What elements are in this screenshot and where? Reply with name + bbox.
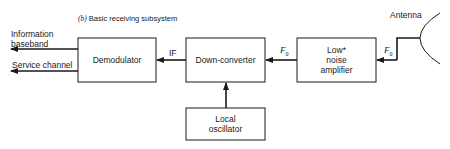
- lna-label-line1: Low*: [327, 45, 346, 55]
- diagram-title: (b) Basic receiving subsystem: [78, 14, 177, 23]
- f0-label-lna-out: F0: [280, 45, 289, 57]
- title-text: Basic receiving subsystem: [89, 14, 177, 23]
- lo-label-line1: Local: [215, 114, 235, 124]
- service-channel-label: Service channel: [12, 60, 72, 70]
- lna-label-line2: noise: [326, 55, 346, 65]
- info-label-line2: baseband: [11, 39, 54, 49]
- antenna-feed: [397, 38, 420, 60]
- info-baseband-label: Information baseband: [11, 29, 54, 49]
- title-prefix: (b): [78, 14, 87, 23]
- if-label: IF: [169, 48, 177, 58]
- lna-label-line3: amplifier: [320, 65, 352, 75]
- lna-label: Low* noise amplifier: [297, 38, 376, 82]
- lo-label-line2: oscillator: [209, 124, 243, 134]
- antenna-dish-icon: [420, 13, 440, 64]
- demodulator-label: Demodulator: [78, 38, 156, 82]
- antenna-label: Antenna: [390, 10, 422, 20]
- down-converter-label: Down-converter: [186, 38, 265, 82]
- f0-label-antenna: F0: [384, 45, 393, 57]
- local-oscillator-label: Local oscillator: [186, 108, 265, 140]
- info-label-line1: Information: [11, 29, 54, 39]
